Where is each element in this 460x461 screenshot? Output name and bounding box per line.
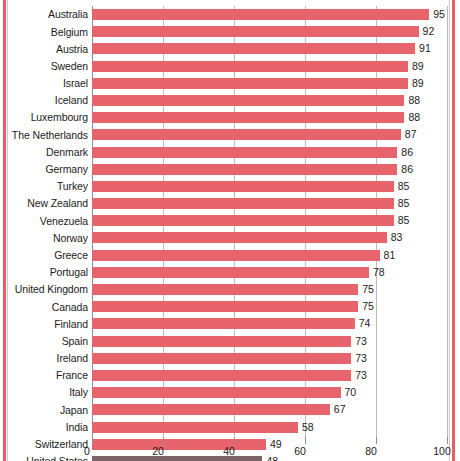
x-tick-0 [92,437,93,444]
bar-chart: Australia95Belgium92Austria91Sweden89Isr… [0,0,460,461]
category-label: Luxembourg [0,112,88,123]
category-label: The Netherlands [0,130,88,141]
bar-row: Sweden89 [0,58,460,75]
category-label: Australia [0,9,88,20]
bar [92,26,419,37]
bar-track: 85 [92,212,447,229]
bar-value-label: 86 [401,146,413,158]
bar-rows: Australia95Belgium92Austria91Sweden89Isr… [0,6,460,461]
bar-track: 86 [92,144,447,161]
x-tick-label-20: 20 [152,445,164,457]
category-label: United Kingdom [0,284,88,295]
bar-track: 86 [92,161,447,178]
category-label: Israel [0,78,88,89]
category-label: United States [0,456,88,461]
x-tick-40 [234,437,235,444]
bar-value-label: 67 [334,403,346,415]
bar-row: Turkey85 [0,178,460,195]
category-label: Sweden [0,61,88,72]
bar-row: India58 [0,419,460,436]
bar-track: 78 [92,264,447,281]
bar-row: Finland74 [0,315,460,332]
category-label: Greece [0,250,88,261]
bar-row: Japan67 [0,401,460,418]
bar [92,232,387,243]
bar [92,353,351,364]
bar-value-label: 92 [423,25,435,37]
bar-row: Israel89 [0,75,460,92]
bar-track: 74 [92,315,447,332]
bar [92,78,408,89]
bar-row: Australia95 [0,6,460,23]
bar-track: 91 [92,40,447,57]
bar [92,250,380,261]
bar-value-label: 78 [373,266,385,278]
bar-value-label: 83 [391,231,403,243]
bar-value-label: 85 [398,180,410,192]
category-label: Turkey [0,181,88,192]
bar-row: Germany86 [0,161,460,178]
bar-track: 88 [92,92,447,109]
bar-track: 88 [92,109,447,126]
bar [92,404,330,415]
bar-value-label: 58 [302,421,314,433]
category-label: France [0,370,88,381]
bar-row: New Zealand85 [0,195,460,212]
bar-value-label: 75 [362,300,374,312]
x-tick-100 [447,437,448,444]
category-label: Canada [0,302,88,313]
bar [92,318,355,329]
bar-track: 67 [92,401,447,418]
bar [92,301,358,312]
category-label: Italy [0,387,88,398]
category-label: Finland [0,319,88,330]
bar [92,112,404,123]
bar-value-label: 89 [412,77,424,89]
bar [92,198,394,209]
bar-value-label: 87 [405,128,417,140]
plot-area: Australia95Belgium92Austria91Sweden89Isr… [0,0,460,461]
bar-value-label: 81 [384,249,396,261]
bar-track: 75 [92,281,447,298]
bar-track: 75 [92,298,447,315]
bar-track: 89 [92,58,447,75]
bar-value-label: 86 [401,163,413,175]
bar-value-label: 89 [412,60,424,72]
category-label: Portugal [0,267,88,278]
category-label: New Zealand [0,198,88,209]
bar-track: 92 [92,23,447,40]
bar-track: 73 [92,333,447,350]
x-tick-label-0: 0 [84,445,90,457]
bar-track: 70 [92,384,447,401]
category-label: Denmark [0,147,88,158]
category-label: Venezuela [0,216,88,227]
bar [92,370,351,381]
bar-value-label: 85 [398,197,410,209]
bar [92,95,404,106]
category-label: Austria [0,44,88,55]
bar-value-label: 73 [355,335,367,347]
bar-row: Belgium92 [0,23,460,40]
bar-value-label: 73 [355,369,367,381]
bar-value-label: 95 [433,8,445,20]
bar-track: 58 [92,419,447,436]
category-label: Germany [0,164,88,175]
category-label: Japan [0,405,88,416]
bar-value-label: 91 [419,42,431,54]
bar-row: Canada75 [0,298,460,315]
bar-track: 73 [92,350,447,367]
category-label: Belgium [0,27,88,38]
bar-row: Venezuela85 [0,212,460,229]
bar-row: Luxembourg88 [0,109,460,126]
bar-value-label: 85 [398,214,410,226]
bar [92,9,429,20]
x-tick-label-100: 100 [433,445,451,457]
bar-value-label: 73 [355,352,367,364]
bar [92,61,408,72]
category-label: Spain [0,336,88,347]
bar [92,336,351,347]
bar [92,215,394,226]
category-label: India [0,422,88,433]
bar-value-label: 74 [359,317,371,329]
bar-row: Ireland73 [0,350,460,367]
